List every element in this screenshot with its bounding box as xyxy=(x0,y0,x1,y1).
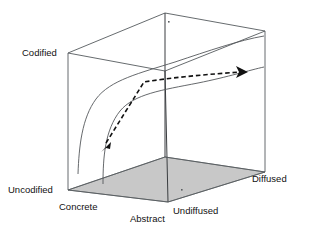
axis-label-abstract: Abstract xyxy=(130,213,165,224)
diagram-canvas: Codified Uncodified Concrete Abstract Un… xyxy=(0,0,311,235)
axis-label-concrete: Concrete xyxy=(59,201,98,212)
trajectory-arrowhead-right xyxy=(236,66,248,78)
axis-label-diffused: Diffused xyxy=(252,173,287,184)
cube-edge-top-back-right xyxy=(165,13,265,31)
i-space-cube-svg: Codified Uncodified Concrete Abstract Un… xyxy=(0,0,311,235)
cube-edge-top-front-left xyxy=(68,53,165,71)
cube-edge-top-back-left xyxy=(68,13,165,53)
trajectory-dashed-path xyxy=(106,72,241,143)
axis-label-undiffused: Undiffused xyxy=(173,205,218,216)
tick-dot-floor xyxy=(181,189,183,191)
axis-label-codified: Codified xyxy=(22,47,57,58)
back-s-curve xyxy=(78,36,264,174)
cube-edge-top-front-right xyxy=(165,31,265,71)
axis-label-uncodified: Uncodified xyxy=(8,184,53,195)
tick-dot-top xyxy=(168,21,170,23)
